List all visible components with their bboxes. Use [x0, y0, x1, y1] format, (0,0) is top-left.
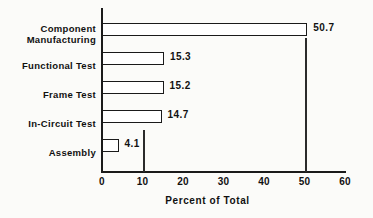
bar[interactable]: [102, 110, 162, 123]
bar[interactable]: [102, 52, 164, 65]
bar-value-label: 50.7: [313, 22, 334, 33]
x-axis-title: Percent of Total: [0, 195, 373, 206]
category-label-component-manufacturing: Component Manufacturing: [0, 23, 96, 45]
category-label-frame-test: Frame Test: [0, 89, 96, 100]
category-label-functional-test: Functional Test: [0, 60, 96, 71]
plot-area: 50.715.315.214.74.1: [102, 8, 345, 172]
bar-chart: Component Manufacturing Functional Test …: [0, 0, 373, 218]
category-label-in-circuit-test: In-Circuit Test: [0, 118, 96, 129]
x-tick-label: 40: [249, 176, 279, 187]
bar-value-label: 15.2: [170, 80, 191, 91]
x-tick-label: 0: [87, 176, 117, 187]
category-label-assembly: Assembly: [0, 147, 96, 158]
x-tick-label: 10: [128, 176, 158, 187]
x-tick-label: 20: [168, 176, 198, 187]
bar[interactable]: [102, 139, 119, 152]
bar-value-label: 14.7: [168, 109, 189, 120]
bar[interactable]: [102, 81, 164, 94]
bar-value-label: 4.1: [125, 138, 140, 149]
x-tick-label: 30: [209, 176, 239, 187]
x-tick-label: 50: [290, 176, 320, 187]
bar[interactable]: [102, 23, 307, 36]
bar-value-label: 15.3: [170, 51, 191, 62]
x-tick-label: 60: [330, 176, 360, 187]
